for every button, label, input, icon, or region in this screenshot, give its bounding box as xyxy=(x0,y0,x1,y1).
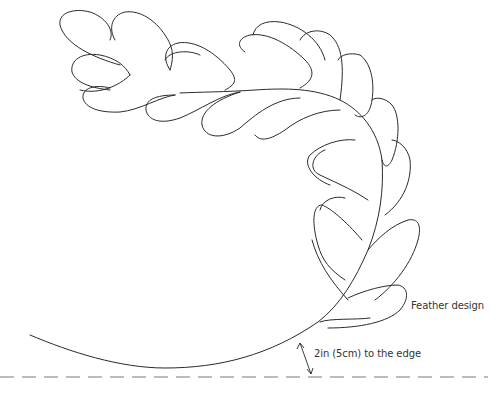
feather-design-label: Feather design xyxy=(411,300,484,311)
margin-arrow-icon xyxy=(297,343,313,374)
feather-spine xyxy=(30,89,382,368)
margin-measurement-label: 2in (5cm) to the edge xyxy=(314,348,421,359)
plumes-right-lower xyxy=(320,220,420,328)
feather-diagram xyxy=(0,0,498,395)
